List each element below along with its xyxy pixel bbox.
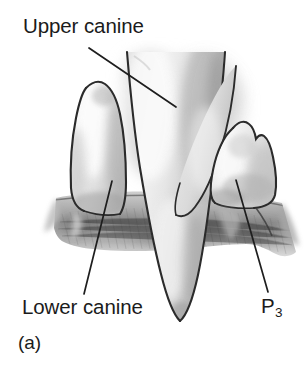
label-p3: P3 xyxy=(261,296,282,317)
label-p3-subscript: 3 xyxy=(275,305,282,320)
label-p3-letter: P xyxy=(261,294,275,317)
figure-caption: (a) xyxy=(18,333,41,352)
figure-container: Upper canine Lower canine P3 (a) xyxy=(0,0,308,367)
label-lower-canine: Lower canine xyxy=(22,297,143,318)
label-upper-canine: Upper canine xyxy=(23,16,144,37)
